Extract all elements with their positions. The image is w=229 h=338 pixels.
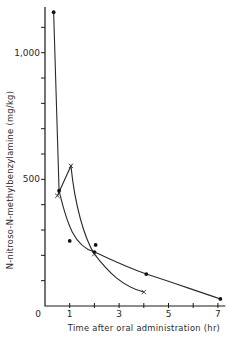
dots-curve (54, 12, 221, 299)
dot-marker (68, 239, 72, 243)
cross-marker (55, 194, 59, 198)
dot-marker (52, 10, 56, 14)
x-tick-label: 3 (116, 309, 122, 319)
dot-marker (144, 272, 148, 276)
y-axis-label: N-nitroso-N-methylbenzylamine (mg/kg) (5, 91, 15, 269)
y-tick-label: 500 (23, 174, 40, 184)
x-tick-label: 0 (35, 309, 41, 319)
x-tick-label: 5 (166, 309, 172, 319)
axes: 5001,00001357 (14, 7, 225, 319)
x-tick-label: 1 (67, 309, 73, 319)
markers (52, 10, 223, 301)
axis-lines (45, 7, 225, 306)
curves (54, 12, 221, 299)
dot-marker (57, 189, 61, 193)
x-tick-label: 7 (215, 309, 221, 319)
chart: 5001,00001357 N-nitroso-N-methylbenzylam… (0, 0, 229, 338)
x-axis-label: Time after oral administration (hr) (67, 323, 220, 333)
y-tick-label: 1,000 (14, 48, 40, 58)
dot-marker (218, 297, 222, 301)
dot-marker (94, 243, 98, 247)
